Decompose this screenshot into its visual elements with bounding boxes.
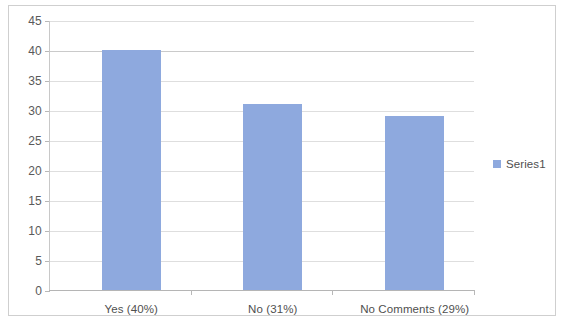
plot-area: 45 40 35 30 25 20 15 10 5 0 [49, 21, 474, 291]
x-tick-mark [474, 290, 475, 295]
y-axis-tick-label: 30 [28, 104, 42, 118]
gridline-45 [49, 21, 474, 22]
square-swatch-icon [493, 160, 501, 168]
y-axis-line [49, 21, 50, 291]
x-tick-mark [332, 290, 333, 295]
x-axis-category-label: No (31%) [248, 303, 297, 315]
x-axis-line [49, 290, 474, 291]
legend-entry-label[interactable]: Series1 [506, 158, 546, 170]
y-axis-tick-label: 45 [28, 14, 42, 28]
y-axis-tick-label: 15 [28, 194, 42, 208]
y-axis-tick-label: 20 [28, 164, 42, 178]
y-axis-tick-label: 40 [28, 44, 42, 58]
x-axis-category-label: Yes (40%) [104, 303, 158, 315]
x-tick-mark [191, 290, 192, 295]
bar-yes[interactable] [102, 50, 161, 290]
chart-legend: Series1 [493, 158, 546, 170]
y-axis-tick-label: 5 [35, 254, 42, 268]
y-axis-tick-label: 25 [28, 134, 42, 148]
y-tick-mark-0 [45, 291, 50, 292]
y-axis-tick-label: 10 [28, 224, 42, 238]
chart-frame: 45 40 35 30 25 20 15 10 5 0 [8, 5, 556, 316]
bar-no-comments[interactable] [385, 116, 444, 290]
x-axis-category-label: No Comments (29%) [360, 303, 469, 315]
bar-no[interactable] [243, 104, 302, 290]
y-axis-tick-label: 0 [35, 284, 42, 298]
y-axis-tick-label: 35 [28, 74, 42, 88]
